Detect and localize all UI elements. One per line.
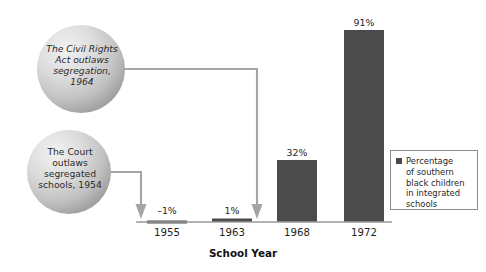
- annotation-bubble-court-ruling: [27, 130, 111, 214]
- legend-label: Percentage of southern black children in…: [406, 156, 473, 210]
- connector-court-ruling: [110, 172, 147, 219]
- x-axis-title: School Year: [0, 247, 486, 259]
- legend-swatch-icon: [396, 158, 402, 164]
- x-tick-1955: 1955: [142, 227, 192, 238]
- x-tick-1972: 1972: [339, 227, 389, 238]
- value-label-1968: 32%: [277, 147, 317, 158]
- annotation-bubble-civil-rights-act: [37, 25, 125, 113]
- legend-item: Percentage of southern black children in…: [396, 156, 473, 210]
- connector-civil-rights-act: [123, 69, 263, 219]
- value-label-1963: 1%: [212, 205, 252, 216]
- x-tick-1968: 1968: [272, 227, 322, 238]
- bar-1972: [344, 30, 384, 222]
- value-label-1955: –1%: [147, 205, 187, 216]
- chart-canvas: The Civil Rights Act outlaws segregation…: [0, 0, 486, 272]
- x-tick-1963: 1963: [207, 227, 257, 238]
- legend: Percentage of southern black children in…: [390, 150, 478, 210]
- value-label-1972: 91%: [344, 17, 384, 28]
- bar-1968: [277, 160, 317, 222]
